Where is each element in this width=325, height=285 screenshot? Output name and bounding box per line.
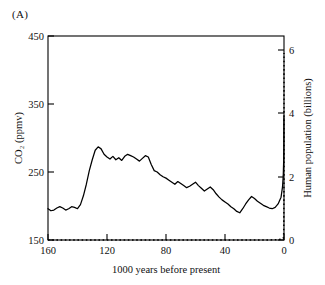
human-population-line: [48, 53, 284, 240]
y-axis-title: CO₂ (ppmv): [13, 112, 25, 164]
y-tick-label-250: 250: [28, 167, 44, 178]
chart-container: 450 350 250 150 6 4 2 0 160 120 80 40 0 …: [0, 0, 325, 285]
x-tick-label-0: 0: [281, 245, 286, 256]
x-tick-label-80: 80: [161, 245, 172, 256]
x-tick-label-120: 120: [99, 245, 115, 256]
y2-tick-label-0: 0: [289, 235, 294, 246]
x-tick-label-160: 160: [40, 245, 56, 256]
y2-tick-label-6: 6: [289, 45, 294, 56]
plot-frame: [48, 36, 284, 240]
y2-axis-title: Human population (billions): [302, 78, 314, 198]
y-tick-label-350: 350: [28, 99, 44, 110]
chart-svg: 450 350 250 150 6 4 2 0 160 120 80 40 0 …: [0, 0, 325, 285]
x-axis-title: 1000 years before present: [112, 264, 220, 275]
x-axis-ticks: [48, 234, 284, 240]
y-tick-label-450: 450: [28, 31, 44, 42]
y2-tick-label-2: 2: [289, 172, 294, 183]
co2-line: [48, 118, 284, 213]
y2-tick-label-4: 4: [289, 108, 295, 119]
y-axis-right-ticks: [278, 50, 284, 240]
x-tick-label-40: 40: [220, 245, 231, 256]
